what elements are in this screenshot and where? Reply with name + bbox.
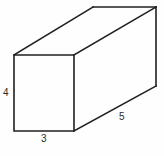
width-dimension-label: 3 <box>41 134 47 144</box>
prism-drawing <box>0 0 164 156</box>
depth-dimension-label: 5 <box>119 112 125 122</box>
height-dimension-label: 4 <box>3 88 9 98</box>
prism-front-face <box>14 55 74 131</box>
rectangular-prism-figure: 4 3 5 <box>0 0 164 156</box>
